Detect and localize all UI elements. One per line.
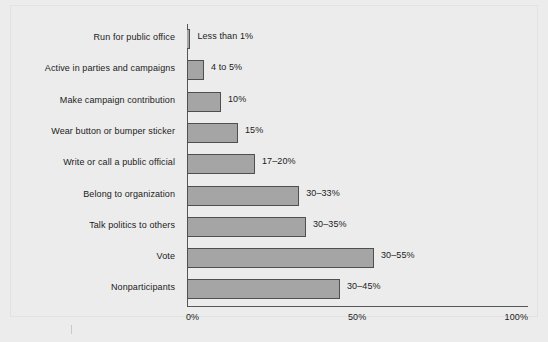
category-label-slot: Talk politics to others [11,212,181,243]
category-label: Vote [157,251,175,261]
bar-value-label: 17–20% [262,156,296,166]
category-label: Run for public office [94,32,175,42]
bar [187,186,299,206]
category-label: Belong to organization [83,189,175,199]
bar [187,248,374,268]
bar [187,60,204,80]
category-label-slot: Run for public office [11,24,181,55]
category-label-slot: Belong to organization [11,181,181,212]
category-label: Talk politics to others [89,220,175,230]
chart-frame: Run for public officeLess than 1%Active … [10,5,538,317]
category-label: Write or call a public official [63,157,175,167]
category-label-slot: Write or call a public official [11,149,181,180]
category-label-slot: Nonparticipants [11,274,181,305]
bar [187,29,190,49]
x-tick-label: 100% [505,312,528,322]
bar [187,123,238,143]
bar-value-label: 30–55% [381,250,415,260]
category-label: Active in parties and campaigns [45,63,175,73]
plot-area: Run for public officeLess than 1%Active … [187,24,527,306]
category-label-slot: Wear button or bumper sticker [11,118,181,149]
bar-value-label: 30–33% [306,188,340,198]
bar [187,92,221,112]
category-label: Nonparticipants [111,282,175,292]
x-axis-line [187,306,528,307]
category-label-slot: Active in parties and campaigns [11,55,181,86]
bar-value-label: 10% [228,94,246,104]
x-tick-label: 0% [186,312,199,322]
chart-figure: Run for public officeLess than 1%Active … [0,0,548,342]
category-label: Wear button or bumper sticker [51,126,175,136]
bar [187,154,255,174]
category-label-slot: Vote [11,243,181,274]
bar-value-label: Less than 1% [197,31,253,41]
bar-value-label: 15% [245,125,263,135]
x-tick-label: 50% [348,312,366,322]
bar [187,217,306,237]
category-label: Make campaign contribution [60,95,175,105]
bar [187,279,340,299]
bar-value-label: 30–35% [313,219,347,229]
page-tick-mark [71,325,72,334]
bar-value-label: 4 to 5% [211,62,242,72]
category-label-slot: Make campaign contribution [11,87,181,118]
bar-value-label: 30–45% [347,281,381,291]
